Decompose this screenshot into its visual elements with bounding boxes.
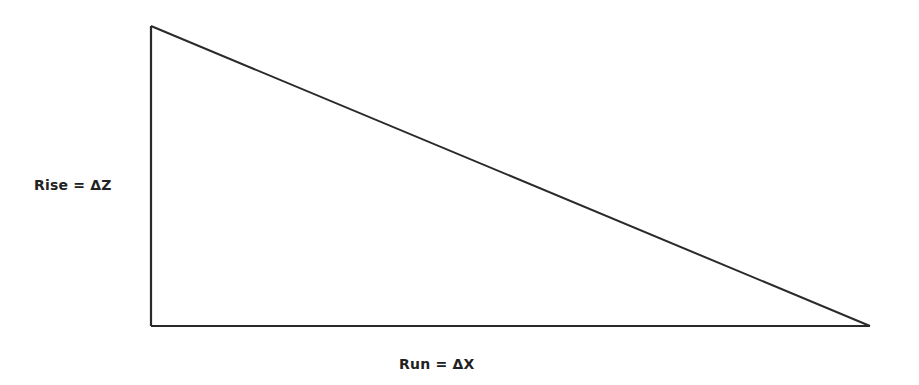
hypotenuse	[151, 26, 870, 326]
run-label: Run = ΔX	[399, 356, 474, 372]
slope-triangle-diagram: Rise = ΔZ Run = ΔX	[0, 0, 919, 385]
triangle-svg	[0, 0, 919, 385]
rise-label: Rise = ΔZ	[34, 177, 112, 193]
